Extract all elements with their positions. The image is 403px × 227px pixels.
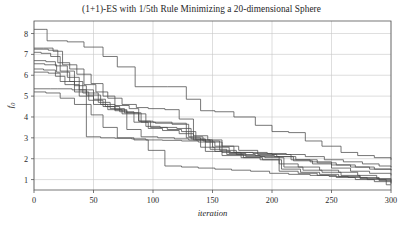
x-tick-label: 150	[206, 196, 218, 205]
x-tick-label: 200	[266, 196, 278, 205]
y-tick-label: 6	[24, 71, 28, 80]
y-tick-label: 1	[24, 176, 28, 185]
x-tick-label: 300	[385, 196, 397, 205]
axis-labels: iterationf0	[5, 103, 227, 218]
y-axis-label-subscript: 0	[10, 103, 16, 106]
y-tick-label: 4	[24, 113, 28, 122]
y-tick-label: 3	[24, 134, 28, 143]
y-tick-label: 5	[24, 92, 28, 101]
x-tick-label: 0	[32, 196, 36, 205]
x-tick-label: 250	[325, 196, 337, 205]
y-tick-label: 8	[24, 30, 28, 39]
chart-figure: (1+1)-ES with 1/5th Rule Minimizing a 20…	[0, 0, 403, 227]
x-tick-label: 50	[89, 196, 97, 205]
y-axis-label: f0	[5, 103, 16, 108]
plot-canvas: 05010015020025030012345678 iterationf0	[0, 0, 403, 227]
x-tick-label: 100	[147, 196, 159, 205]
y-tick-label: 7	[24, 50, 28, 59]
x-axis-label: iteration	[198, 208, 228, 218]
y-tick-label: 2	[24, 155, 28, 164]
